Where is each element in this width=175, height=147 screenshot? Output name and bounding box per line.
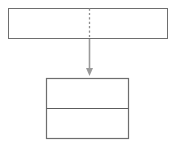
top-rectangle-group bbox=[9, 9, 168, 39]
diagram-canvas bbox=[0, 0, 175, 147]
top-rectangle-fill bbox=[9, 9, 168, 39]
downward-arrow bbox=[86, 39, 93, 76]
downward-arrow-head bbox=[86, 68, 93, 76]
diagram-svg bbox=[0, 0, 175, 147]
bottom-rectangle-group bbox=[47, 79, 129, 139]
